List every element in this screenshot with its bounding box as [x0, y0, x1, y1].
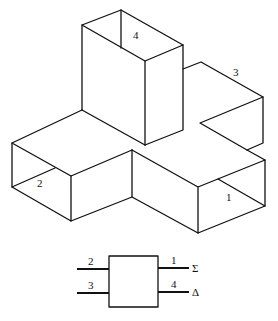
port-2-label: 2	[37, 177, 43, 189]
schematic-symbol: 2 3 1 4 Σ Δ	[77, 254, 199, 307]
schematic-port-2-label: 2	[88, 255, 94, 267]
port-2-arm	[12, 110, 132, 221]
port-3-label: 3	[233, 66, 239, 78]
schematic-port-4-label: 4	[171, 278, 177, 290]
schematic-port-1-label: 1	[171, 254, 177, 266]
port-1-label: 1	[226, 191, 232, 203]
sum-symbol: Σ	[192, 262, 198, 274]
port-1-arm	[132, 150, 265, 233]
magic-tee-diagram: 4 3 2 1 2 3 1 4 Σ Δ	[0, 0, 278, 321]
port-4-label: 4	[133, 29, 139, 41]
port-3-arm	[183, 62, 265, 160]
difference-symbol: Δ	[192, 286, 199, 298]
junction-box	[109, 256, 158, 307]
schematic-port-3-label: 3	[88, 279, 94, 291]
